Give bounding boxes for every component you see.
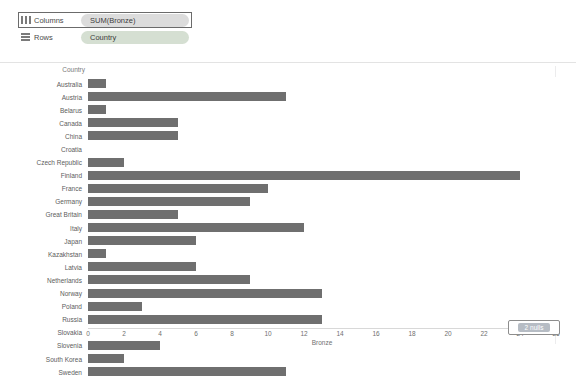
row-label-cell: Japan xyxy=(22,234,85,247)
row-label-cell: Russia xyxy=(22,313,85,326)
bar[interactable] xyxy=(88,92,286,101)
row-label-cell: Czech Republic xyxy=(22,156,85,169)
bar[interactable] xyxy=(88,367,286,376)
bar[interactable] xyxy=(88,275,250,284)
row-label: Netherlands xyxy=(47,276,82,283)
bar-row[interactable] xyxy=(88,103,556,116)
bar-row[interactable] xyxy=(88,169,556,182)
tableau-bar-chart-view: Columns SUM(Bronze) Rows Country Country… xyxy=(0,0,576,378)
x-axis-tick: 2 xyxy=(122,330,126,337)
bar-row[interactable] xyxy=(88,313,556,326)
bar-row[interactable] xyxy=(88,208,556,221)
bar[interactable] xyxy=(88,184,268,193)
bar-row[interactable] xyxy=(88,273,556,286)
row-label-cell: Finland xyxy=(22,169,85,182)
bar-row[interactable] xyxy=(88,129,556,142)
chart-frame: Country AustraliaAustriaBelarusCanadaChi… xyxy=(22,66,556,344)
bar[interactable] xyxy=(88,302,142,311)
row-label: France xyxy=(62,185,82,192)
row-label-cell: South Korea xyxy=(22,352,85,365)
bar[interactable] xyxy=(88,249,106,258)
row-label-cell: Germany xyxy=(22,195,85,208)
row-label: Sweden xyxy=(59,368,83,375)
x-axis-tick: 6 xyxy=(194,330,198,337)
bar[interactable] xyxy=(88,289,322,298)
row-label-cell: Belarus xyxy=(22,103,85,116)
bar-row[interactable] xyxy=(88,300,556,313)
row-label-cell: China xyxy=(22,129,85,142)
bar[interactable] xyxy=(88,131,178,140)
bar[interactable] xyxy=(88,354,124,363)
row-label: Italy xyxy=(70,224,82,231)
row-label-cell: Norway xyxy=(22,287,85,300)
bar[interactable] xyxy=(88,223,304,232)
x-axis-tick: 8 xyxy=(230,330,234,337)
pill-country[interactable]: Country xyxy=(81,31,189,44)
bar[interactable] xyxy=(88,197,250,206)
row-label: Germany xyxy=(55,198,82,205)
x-axis: Bronze 02468101214161820222426 xyxy=(88,328,556,344)
x-axis-line xyxy=(88,328,556,329)
row-labels-column: AustraliaAustriaBelarusCanadaChinaCroati… xyxy=(22,77,85,327)
bar-row[interactable] xyxy=(88,142,556,155)
columns-shelf-label-wrap: Columns xyxy=(21,16,81,25)
bar[interactable] xyxy=(88,105,106,114)
bar[interactable] xyxy=(88,236,196,245)
row-label-cell: France xyxy=(22,182,85,195)
row-label-cell: Australia xyxy=(22,77,85,90)
bar[interactable] xyxy=(88,118,178,127)
row-label-cell: Canada xyxy=(22,116,85,129)
x-axis-tick: 18 xyxy=(408,330,415,337)
row-label: Canada xyxy=(59,119,82,126)
row-label: Croatia xyxy=(61,146,82,153)
row-label: Japan xyxy=(64,237,82,244)
null-indicator[interactable]: 2 nulls xyxy=(508,320,560,335)
row-label-cell: Netherlands xyxy=(22,273,85,286)
bar-row[interactable] xyxy=(88,195,556,208)
plot-area[interactable] xyxy=(88,77,556,327)
bar-row[interactable] xyxy=(88,247,556,260)
shelf-area: Columns SUM(Bronze) Rows Country xyxy=(0,12,576,46)
row-label: Norway xyxy=(60,290,82,297)
row-label-cell: Latvia xyxy=(22,260,85,273)
row-label: South Korea xyxy=(46,355,82,362)
row-label-cell: Croatia xyxy=(22,142,85,155)
columns-shelf[interactable]: Columns SUM(Bronze) xyxy=(18,12,192,28)
bar-row[interactable] xyxy=(88,182,556,195)
row-label: Austria xyxy=(62,93,82,100)
bar-row[interactable] xyxy=(88,287,556,300)
x-axis-tick: 22 xyxy=(480,330,487,337)
x-axis-tick: 0 xyxy=(86,330,90,337)
bar[interactable] xyxy=(88,315,322,324)
rows-grid-icon xyxy=(21,33,30,41)
x-axis-tick: 14 xyxy=(336,330,343,337)
row-label: Slovenia xyxy=(57,342,82,349)
row-label-cell: Slovakia xyxy=(22,326,85,339)
x-axis-tick: 10 xyxy=(264,330,271,337)
row-label-cell: Austria xyxy=(22,90,85,103)
row-label-cell: Great Britain xyxy=(22,208,85,221)
bar-row[interactable] xyxy=(88,352,556,365)
rows-shelf-label-wrap: Rows xyxy=(21,33,81,42)
rows-shelf[interactable]: Rows Country xyxy=(18,29,192,45)
bar-row[interactable] xyxy=(88,365,556,378)
bar[interactable] xyxy=(88,262,196,271)
x-axis-title: Bronze xyxy=(88,339,556,346)
columns-shelf-label: Columns xyxy=(34,16,64,25)
bar-row[interactable] xyxy=(88,221,556,234)
bar[interactable] xyxy=(88,79,106,88)
bar-row[interactable] xyxy=(88,234,556,247)
bar-row[interactable] xyxy=(88,116,556,129)
bar[interactable] xyxy=(88,171,520,180)
bar[interactable] xyxy=(88,158,124,167)
bar-row[interactable] xyxy=(88,90,556,103)
x-axis-tick: 4 xyxy=(158,330,162,337)
bar-row[interactable] xyxy=(88,77,556,90)
row-label-cell: Kazakhstan xyxy=(22,247,85,260)
bar[interactable] xyxy=(88,210,178,219)
bar-row[interactable] xyxy=(88,156,556,169)
bar-row[interactable] xyxy=(88,260,556,273)
x-axis-tick: 16 xyxy=(372,330,379,337)
pill-sum-bronze[interactable]: SUM(Bronze) xyxy=(81,14,189,27)
row-header-title: Country xyxy=(22,66,85,73)
